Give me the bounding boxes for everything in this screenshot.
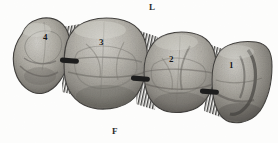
tooth-label-4: 4	[43, 32, 48, 42]
tooth-arch-figure: L F 4 3 2 1	[0, 0, 278, 143]
orientation-label-lingual: L	[149, 2, 156, 12]
teeth-illustration	[0, 0, 278, 143]
tooth-label-1: 1	[229, 60, 234, 70]
orientation-label-facial: F	[112, 126, 118, 136]
tooth-label-3: 3	[99, 37, 104, 47]
tooth-label-2: 2	[169, 54, 174, 64]
print-grain-overlay	[0, 0, 278, 143]
